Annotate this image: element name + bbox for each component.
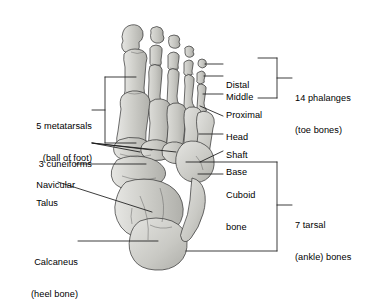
toe-4-bones	[184, 46, 195, 111]
toe-3-bones	[167, 35, 180, 110]
toe3-distal-phalanx	[169, 35, 181, 48]
toe4-distal-phalanx	[185, 46, 194, 57]
toe5-distal-phalanx	[198, 59, 206, 68]
label-calcaneus-line2: (heel bone)	[8, 289, 78, 300]
calcaneus-bone	[129, 218, 187, 270]
lateral-tarsal-edge	[181, 178, 206, 242]
label-calcaneus: Calcaneus (heel bone)	[8, 236, 78, 303]
label-calcaneus-line1: Calcaneus	[8, 257, 78, 268]
label-cuboid-line2: bone	[226, 222, 255, 233]
toe5-middle-phalanx	[197, 71, 206, 84]
toe4-middle-phalanx	[184, 60, 194, 76]
label-tarsal-line1: 7 tarsal	[295, 220, 351, 231]
toe4-proximal-phalanx	[184, 75, 195, 112]
phalanges-bracket	[258, 58, 292, 98]
label-tarsal-group: 7 tarsal (ankle) bones	[295, 199, 351, 284]
label-tarsal-line2: (ankle) bones	[295, 252, 351, 263]
label-phalanges-group: 14 phalanges (toe bones)	[295, 72, 351, 157]
label-phalanges-line1: 14 phalanges	[295, 93, 351, 104]
label-talus-line1: Talus	[8, 198, 58, 209]
label-cuboid-line1: Cuboid	[226, 190, 255, 201]
toe-5-bones	[197, 59, 207, 113]
toe2-distal-phalanx	[151, 27, 165, 44]
label-cuboid-bone: Cuboid bone	[226, 169, 255, 254]
label-metatarsals-line1: 5 metatarsals	[8, 121, 92, 132]
label-talus: Talus	[8, 177, 58, 230]
label-phalanges-line2: (toe bones)	[295, 125, 351, 136]
toe2-middle-phalanx	[150, 45, 163, 67]
